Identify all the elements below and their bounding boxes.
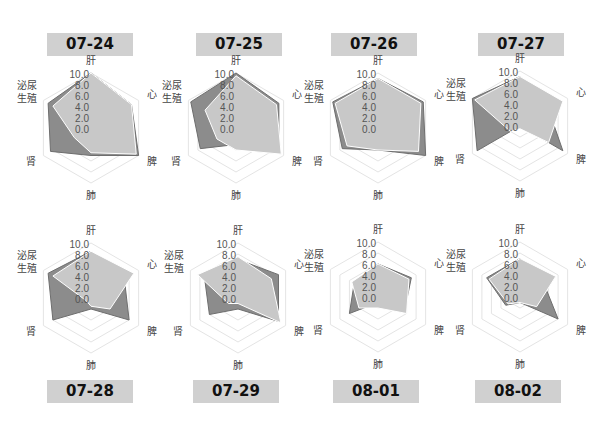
axis-label-urogenital: 泌尿生殖: [299, 248, 329, 274]
tick-label: 0.0: [208, 124, 234, 135]
tick-label: 6.0: [350, 260, 376, 271]
axis-label-spleen: 脾: [566, 324, 596, 337]
tick-label: 6.0: [492, 260, 518, 271]
axis-label-kidney: 肾: [161, 155, 191, 168]
axis-label-urogenital: 泌尿生殖: [12, 249, 42, 275]
axis-label-liver: 肝: [76, 54, 106, 67]
tick-label: 0.0: [210, 294, 236, 305]
date-label-5: 07-29: [193, 380, 279, 403]
axis-label-lung: 肺: [76, 189, 106, 202]
tick-label: 4.0: [63, 272, 89, 283]
radar-chart-0725: 10.08.06.04.02.00.0肝心脾肺肾泌尿生殖: [161, 38, 311, 213]
axis-label-liver: 肝: [363, 54, 393, 67]
tick-label: 0.0: [492, 122, 518, 133]
tick-label: 6.0: [350, 91, 376, 102]
axis-label-lung: 肺: [505, 358, 535, 371]
date-label-7: 08-02: [475, 380, 561, 403]
axis-label-lung: 肺: [505, 187, 535, 200]
axis-label-urogenital: 泌尿生殖: [441, 248, 471, 274]
tick-label: 2.0: [350, 113, 376, 124]
tick-label: 4.0: [63, 102, 89, 113]
axis-label-kidney: 肾: [445, 324, 475, 337]
axis-label-urogenital: 泌尿生殖: [299, 79, 329, 105]
tick-label: 6.0: [210, 261, 236, 272]
tick-label: 2.0: [63, 113, 89, 124]
tick-label: 8.0: [63, 80, 89, 91]
tick-label: 6.0: [208, 91, 234, 102]
tick-label: 10.0: [350, 238, 376, 249]
axis-label-liver: 肝: [223, 224, 253, 237]
axis-label-heart: 心: [566, 86, 596, 99]
tick-label: 8.0: [492, 78, 518, 89]
axis-label-kidney: 肾: [16, 325, 46, 338]
tick-label: 10.0: [63, 239, 89, 250]
tick-label: 4.0: [492, 271, 518, 282]
axis-label-liver: 肝: [505, 223, 535, 236]
axis-label-lung: 肺: [223, 359, 253, 372]
tick-label: 10.0: [492, 238, 518, 249]
tick-label: 8.0: [210, 250, 236, 261]
radar-chart-0726: 10.08.06.04.02.00.0肝心脾肺肾泌尿生殖: [303, 38, 453, 213]
series-light: [335, 79, 421, 152]
tick-label: 0.0: [63, 124, 89, 135]
tick-label: 2.0: [492, 282, 518, 293]
axis-label-urogenital: 泌尿生殖: [12, 79, 42, 105]
axis-label-lung: 肺: [363, 358, 393, 371]
tick-label: 10.0: [208, 69, 234, 80]
radar-chart-0728: 10.08.06.04.02.00.0肝心脾肺肾泌尿生殖: [16, 208, 166, 383]
axis-label-liver: 肝: [76, 224, 106, 237]
axis-label-kidney: 肾: [303, 324, 333, 337]
date-label-6: 08-01: [333, 380, 419, 403]
axis-label-kidney: 肾: [445, 153, 475, 166]
axis-label-lung: 肺: [76, 359, 106, 372]
tick-label: 2.0: [208, 113, 234, 124]
tick-label: 4.0: [350, 271, 376, 282]
tick-label: 6.0: [492, 89, 518, 100]
axis-label-spleen: 脾: [566, 153, 596, 166]
tick-label: 6.0: [63, 261, 89, 272]
radar-chart-0724: 10.08.06.04.02.00.0肝心脾肺肾泌尿生殖: [16, 38, 166, 213]
date-label-4: 07-28: [47, 380, 133, 403]
tick-label: 4.0: [208, 102, 234, 113]
axis-label-kidney: 肾: [163, 325, 193, 338]
axis-label-kidney: 肾: [303, 155, 333, 168]
tick-label: 4.0: [210, 272, 236, 283]
tick-label: 10.0: [210, 239, 236, 250]
tick-label: 0.0: [350, 293, 376, 304]
tick-label: 2.0: [492, 111, 518, 122]
tick-label: 10.0: [63, 69, 89, 80]
axis-label-liver: 肝: [505, 52, 535, 65]
axis-label-liver: 肝: [221, 54, 251, 67]
axis-label-lung: 肺: [221, 189, 251, 202]
tick-label: 2.0: [350, 282, 376, 293]
axis-label-urogenital: 泌尿生殖: [157, 79, 187, 105]
tick-label: 0.0: [350, 124, 376, 135]
tick-label: 2.0: [210, 283, 236, 294]
tick-label: 8.0: [350, 80, 376, 91]
radar-chart-0801: 10.08.06.04.02.00.0肝心脾肺肾泌尿生殖: [303, 207, 453, 382]
tick-label: 6.0: [63, 91, 89, 102]
tick-label: 8.0: [208, 80, 234, 91]
tick-label: 4.0: [350, 102, 376, 113]
axis-label-heart: 心: [566, 257, 596, 270]
tick-label: 8.0: [63, 250, 89, 261]
tick-label: 8.0: [492, 249, 518, 260]
axis-label-urogenital: 泌尿生殖: [159, 249, 189, 275]
tick-label: 10.0: [350, 69, 376, 80]
tick-label: 10.0: [492, 67, 518, 78]
axis-label-kidney: 肾: [16, 155, 46, 168]
radar-chart-0802: 10.08.06.04.02.00.0肝心脾肺肾泌尿生殖: [445, 207, 595, 382]
axis-label-liver: 肝: [363, 223, 393, 236]
radar-chart-0727: 10.08.06.04.02.00.0肝心脾肺肾泌尿生殖: [445, 36, 595, 211]
tick-label: 0.0: [63, 294, 89, 305]
axis-label-urogenital: 泌尿生殖: [441, 77, 471, 103]
tick-label: 2.0: [63, 283, 89, 294]
tick-label: 8.0: [350, 249, 376, 260]
tick-label: 4.0: [492, 100, 518, 111]
radar-chart-0729: 10.08.06.04.02.00.0肝心脾肺肾泌尿生殖: [163, 208, 313, 383]
tick-label: 0.0: [492, 293, 518, 304]
axis-label-lung: 肺: [363, 189, 393, 202]
